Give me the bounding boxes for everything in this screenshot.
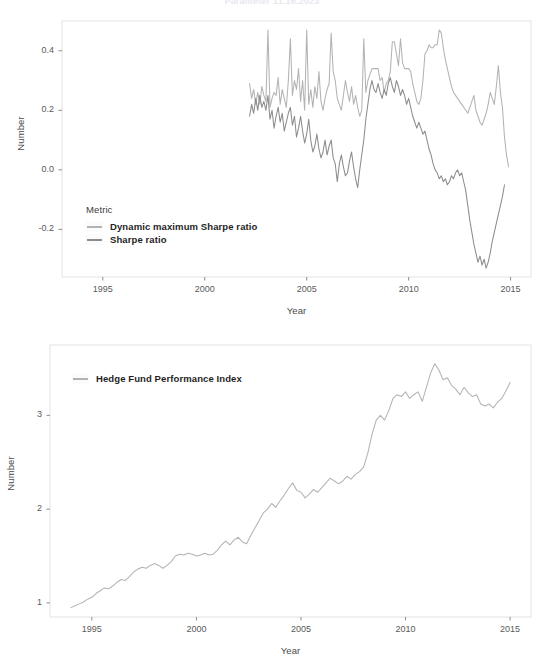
x-tick-label: 2010 bbox=[376, 624, 436, 634]
x-tick-label: 2005 bbox=[271, 624, 331, 634]
page-title: Parameter 11.16.2023 bbox=[0, 0, 544, 6]
y-tick-label: 0.0 bbox=[20, 164, 54, 174]
legend-item-label: Sharpe ratio bbox=[110, 234, 167, 245]
x-axis-title: Year bbox=[251, 645, 331, 656]
chart-sharpe-ratios: Number Year -0.20.00.20.4 19952000200520… bbox=[0, 8, 544, 328]
legend-item-label: Dynamic maximum Sharpe ratio bbox=[110, 221, 257, 232]
x-tick-label: 1995 bbox=[62, 624, 122, 634]
plot-panel-top bbox=[0, 8, 544, 328]
y-tick-label: 0.4 bbox=[20, 45, 54, 55]
x-tick-label: 2005 bbox=[277, 284, 337, 294]
legend-top: Metric Dynamic maximum Sharpe ratio Shar… bbox=[86, 204, 257, 246]
x-tick-label: 2015 bbox=[480, 624, 540, 634]
legend-line-icon bbox=[86, 234, 103, 245]
y-tick-label: 3 bbox=[8, 409, 42, 419]
legend-item-sharpe-ratio[interactable]: Sharpe ratio bbox=[86, 233, 257, 246]
legend-bottom: Hedge Fund Performance Index bbox=[72, 372, 242, 385]
legend-item-dynamic-maximum-sharpe-ratio[interactable]: Dynamic maximum Sharpe ratio bbox=[86, 220, 257, 233]
x-tick-label: 2015 bbox=[481, 284, 541, 294]
x-tick-label: 2010 bbox=[379, 284, 439, 294]
x-axis-title: Year bbox=[257, 305, 337, 316]
legend-title: Metric bbox=[86, 204, 257, 215]
x-tick-label: 2000 bbox=[166, 624, 226, 634]
chart-hedge-fund-performance-index: Number Year 123 19952000200520102015 Hed… bbox=[0, 330, 544, 662]
y-tick-label: 1 bbox=[8, 597, 42, 607]
y-axis-title: Number bbox=[5, 444, 16, 504]
y-tick-label: -0.2 bbox=[20, 223, 54, 233]
plot-canvas-top bbox=[0, 8, 544, 328]
x-tick-label: 1995 bbox=[73, 284, 133, 294]
y-tick-label: 2 bbox=[8, 503, 42, 513]
y-tick-label: 0.2 bbox=[20, 104, 54, 114]
legend-item-hedge-fund-performance-index[interactable]: Hedge Fund Performance Index bbox=[72, 372, 242, 385]
x-tick-label: 2000 bbox=[175, 284, 235, 294]
legend-line-icon bbox=[72, 373, 89, 384]
legend-line-icon bbox=[86, 221, 103, 232]
legend-item-label: Hedge Fund Performance Index bbox=[96, 373, 242, 384]
